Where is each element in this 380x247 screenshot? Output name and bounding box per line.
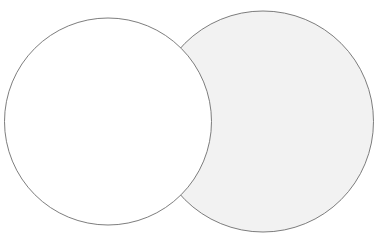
circles-diagram-svg [0,0,380,247]
figure-canvas [0,0,380,247]
left-circle [5,18,212,225]
